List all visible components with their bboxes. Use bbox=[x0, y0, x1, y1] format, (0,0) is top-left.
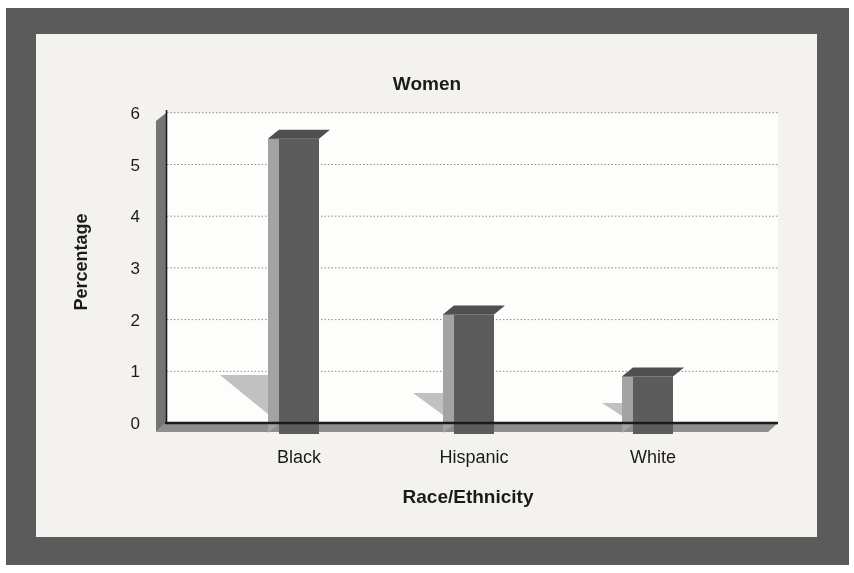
bar-front-face-black bbox=[279, 139, 319, 434]
y-tick-label-4: 4 bbox=[131, 207, 140, 226]
chart-title: Women bbox=[393, 73, 461, 94]
x-axis-title: Race/Ethnicity bbox=[403, 486, 534, 507]
y-axis-title: Percentage bbox=[71, 213, 91, 310]
women-percentage-bar-chart: Women0123456PercentageBlackHispanicWhite… bbox=[0, 0, 854, 573]
plot-left-wall-3d bbox=[156, 113, 166, 432]
category-label-white: White bbox=[630, 447, 676, 467]
bar-front-face-white bbox=[633, 376, 673, 434]
y-tick-label-5: 5 bbox=[131, 156, 140, 175]
category-label-hispanic: Hispanic bbox=[439, 447, 508, 467]
category-label-black: Black bbox=[277, 447, 322, 467]
y-tick-label-1: 1 bbox=[131, 362, 140, 381]
y-tick-label-6: 6 bbox=[131, 104, 140, 123]
scanned-figure-page: Women0123456PercentageBlackHispanicWhite… bbox=[0, 0, 854, 573]
bar-front-face-hispanic bbox=[454, 314, 494, 434]
y-tick-label-2: 2 bbox=[131, 311, 140, 330]
y-tick-label-3: 3 bbox=[131, 259, 140, 278]
bar-side-face-hispanic bbox=[443, 305, 454, 433]
y-tick-label-0: 0 bbox=[131, 414, 140, 433]
bar-side-face-black bbox=[268, 130, 279, 433]
